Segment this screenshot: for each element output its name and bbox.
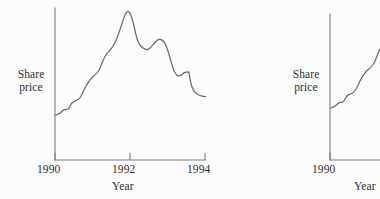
y-axis-label-line-2: price [12, 81, 50, 94]
x-axis-title: Year [112, 180, 134, 193]
share-price-curve [331, 49, 380, 108]
x-axis-title: Year [354, 180, 376, 193]
x-tick-label-1992: 1992 [112, 163, 135, 176]
x-tick-label-1990: 1990 [312, 163, 335, 176]
y-axis-label-line-1: Share [287, 68, 325, 81]
y-axis-label-line-1: Share [12, 68, 50, 81]
y-axis-label-line-2: price [287, 81, 325, 94]
y-axis-label: Share price [12, 68, 50, 94]
figure-page: Share price 1990 1992 1994 Year Share pr… [0, 0, 380, 199]
y-axis-label: Share price [287, 68, 325, 94]
x-tick-label-1990: 1990 [37, 163, 60, 176]
share-price-chart-complete: Share price 1990 1992 1994 Year [0, 0, 250, 199]
x-tick-label-1994: 1994 [187, 163, 210, 176]
share-price-chart-cropped: Share price 1990 Year [250, 0, 380, 199]
share-price-curve [56, 11, 206, 115]
